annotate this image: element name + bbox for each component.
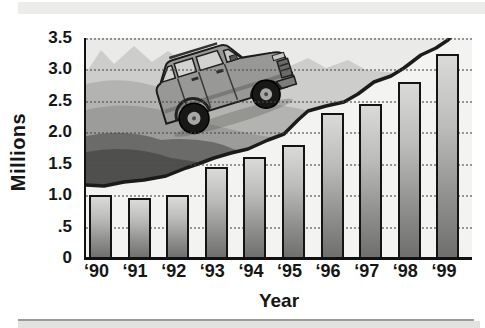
y-tick-label: 3.0 [12, 58, 72, 80]
x-tick-label: ‘97 [347, 261, 387, 282]
y-tick-label: 1.0 [12, 184, 72, 206]
gridline [86, 38, 472, 40]
x-tick-label: ‘92 [154, 261, 194, 282]
gridline [86, 69, 472, 71]
x-tick-label: ‘94 [231, 261, 271, 282]
bar-94 [243, 157, 266, 258]
y-tick-label: .5 [12, 216, 72, 238]
y-tick-label: 3.5 [12, 27, 72, 49]
x-tick-label: ‘99 [424, 261, 464, 282]
x-axis-line [84, 257, 472, 260]
bar-91 [128, 198, 151, 258]
y-tick-label: 0 [12, 247, 72, 269]
textbook-page: Millions 0.51.01.52.02.53.03.5 [0, 0, 485, 328]
bar-95 [282, 145, 305, 258]
bar-96 [321, 113, 344, 258]
x-tick-label: ‘96 [308, 261, 348, 282]
bottom-divider-band [18, 321, 480, 328]
bar-99 [436, 54, 459, 258]
x-axis-tick-labels: ‘90‘91‘92‘93‘94‘95‘96‘97‘98‘99 [86, 261, 472, 285]
x-tick-label: ‘95 [270, 261, 310, 282]
bar-97 [359, 104, 382, 258]
y-tick-label: 2.0 [12, 121, 72, 143]
y-tick-label: 1.5 [12, 153, 72, 175]
y-axis-tick-labels: 0.51.01.52.02.53.03.5 [0, 38, 80, 258]
bar-92 [166, 195, 189, 258]
x-tick-label: ‘98 [385, 261, 425, 282]
bar-90 [89, 195, 112, 258]
top-divider-band [18, 2, 485, 14]
y-tick-label: 2.5 [12, 90, 72, 112]
bar-93 [205, 167, 228, 258]
y-axis-line [84, 38, 86, 259]
x-tick-label: ‘90 [77, 261, 117, 282]
x-tick-label: ‘91 [115, 261, 155, 282]
bar-98 [398, 82, 421, 258]
x-axis-title: Year [86, 290, 472, 312]
x-tick-label: ‘93 [192, 261, 232, 282]
plot-area [86, 38, 472, 258]
